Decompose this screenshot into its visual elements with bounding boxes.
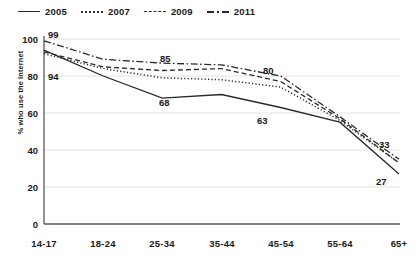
x-tick-label: 45-54 (268, 238, 294, 249)
axis-lines (44, 36, 400, 224)
y-tick-label: 20 (27, 182, 38, 193)
y-tick-label: 100 (22, 34, 38, 45)
x-tick-label: 35-44 (209, 238, 235, 249)
data-point-labels: 99 94 85 68 80 63 33 27 (48, 29, 390, 187)
y-tick-labels: 100 80 60 40 20 0 (22, 34, 38, 230)
data-label-85: 85 (160, 53, 171, 64)
data-label-33: 33 (379, 139, 390, 150)
series-line-2007[interactable] (44, 54, 399, 163)
series-line-2009[interactable] (44, 52, 399, 163)
data-label-27: 27 (376, 176, 387, 187)
series-line-2011[interactable] (44, 41, 399, 160)
data-label-80: 80 (263, 65, 274, 76)
data-label-99: 99 (48, 29, 59, 40)
data-label-68: 68 (159, 97, 170, 108)
x-tick-label: 65+ (391, 238, 408, 249)
data-label-63: 63 (257, 115, 268, 126)
series-paths (44, 41, 399, 174)
x-tick-label: 25-34 (149, 238, 175, 249)
x-tick-labels: 14-17 18-24 25-34 35-44 45-54 55-64 65+ (31, 238, 407, 249)
gridlines (44, 39, 400, 187)
y-tick-label: 0 (33, 219, 38, 230)
chart-canvas: 100 80 60 40 20 0 14-17 18-24 25-34 35-4… (0, 0, 418, 258)
y-tick-label: 80 (27, 71, 38, 82)
line-chart: 2005 2007 2009 2011 % who use the Intern… (0, 0, 418, 258)
x-tick-label: 14-17 (31, 238, 56, 249)
y-tick-label: 40 (27, 145, 38, 156)
x-tick-label: 55-64 (327, 238, 353, 249)
x-tick-label: 18-24 (90, 238, 116, 249)
data-label-94: 94 (48, 71, 59, 82)
y-tick-label: 60 (27, 108, 38, 119)
